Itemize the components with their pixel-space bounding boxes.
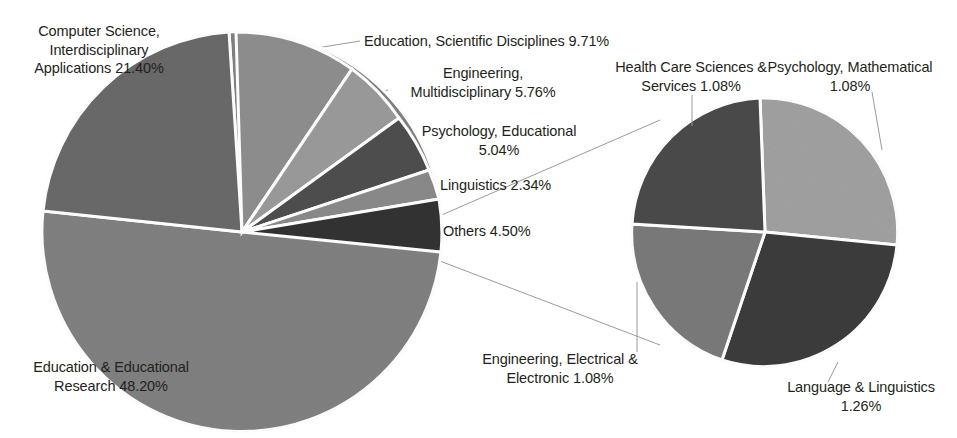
label-language-linguistics: Language & Linguistics 1.26%	[768, 378, 954, 415]
secondary-pie	[632, 98, 898, 367]
label-psychology-educational: Psychology, Educational 5.04%	[404, 122, 594, 159]
label-education-educational-research: Education & Educational Research 48.20%	[6, 358, 216, 395]
label-others: Others 4.50%	[443, 222, 583, 241]
label-linguistics: Linguistics 2.34%	[440, 176, 600, 195]
label-engineering-multidisciplinary: Engineering, Multidisciplinary 5.76%	[392, 64, 574, 101]
label-engineering-electrical-electronic: Engineering, Electrical & Electronic 1.0…	[462, 350, 658, 387]
leader-line-psychology-mathematical	[872, 92, 882, 150]
label-psychology-mathematical: Psychology, Mathematical 1.08%	[752, 58, 948, 95]
label-computer-science: Computer Science, Interdisciplinary Appl…	[8, 22, 190, 78]
slice-health-care-sciences[interactable]	[632, 98, 765, 232]
label-education-scientific-disciplines: Education, Scientific Disciplines 9.71%	[364, 32, 624, 51]
label-health-care-sciences-services: Health Care Sciences & Services 1.08%	[608, 58, 774, 95]
pie-of-pie-chart: Computer Science, Interdisciplinary Appl…	[0, 0, 957, 438]
